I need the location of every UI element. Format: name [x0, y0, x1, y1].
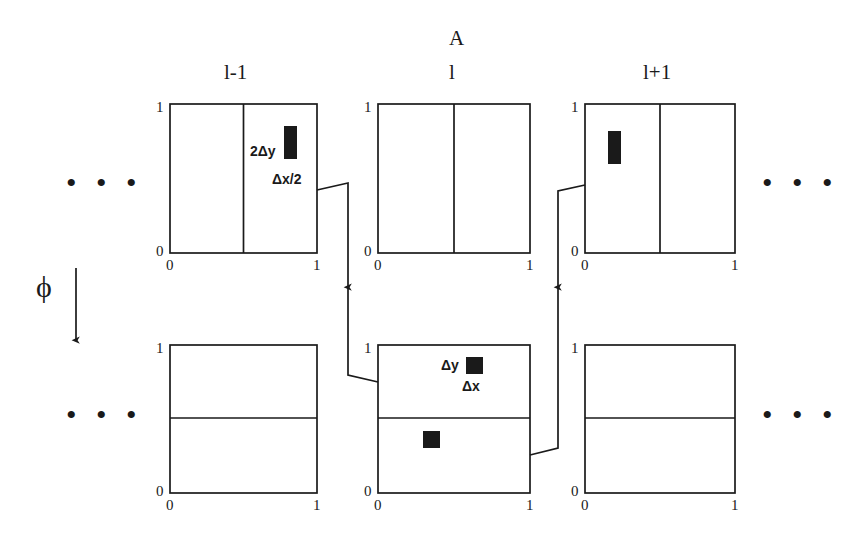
axis-y-top-top-right: 1 [571, 100, 579, 115]
axis-x-right-bottom-left: 1 [313, 498, 321, 513]
axis-x-left-bottom-left: 0 [166, 498, 174, 513]
axis-y-top-bottom-right: 1 [571, 341, 579, 356]
axis-y-bottom-top-right: 0 [571, 244, 579, 259]
axis-y-bottom-bottom-right: 0 [571, 484, 579, 499]
panel-top-middle [378, 104, 530, 253]
axis-x-right-bottom-middle: 1 [526, 498, 534, 513]
panel-top-right [585, 104, 735, 253]
axis-x-right-top-right: 1 [731, 258, 739, 273]
axis-x-right-bottom-right: 1 [731, 498, 739, 513]
annotation-2dy: 2Δy [250, 144, 276, 158]
block-tall [608, 131, 621, 164]
axis-y-top-top-left: 1 [156, 100, 164, 115]
diagram-canvas [0, 0, 854, 541]
block-tall [284, 126, 297, 159]
axis-x-left-bottom-right: 0 [581, 498, 589, 513]
axis-y-bottom-top-middle: 0 [364, 244, 372, 259]
axis-y-top-bottom-middle: 1 [364, 341, 372, 356]
axis-y-top-bottom-left: 1 [156, 341, 164, 356]
axis-y-bottom-bottom-left: 0 [156, 484, 164, 499]
axis-x-left-top-right: 0 [581, 258, 589, 273]
axis-y-bottom-top-left: 0 [156, 244, 164, 259]
annotation-dx-half: Δx/2 [272, 172, 302, 186]
connector-right [530, 185, 585, 455]
axis-x-left-top-middle: 0 [374, 258, 382, 273]
axis-x-right-top-middle: 1 [526, 258, 534, 273]
block-square-lower [423, 431, 440, 448]
annotation-dy: Δy [441, 358, 459, 372]
panel-bottom-left [170, 345, 317, 493]
axis-x-left-top-left: 0 [166, 258, 174, 273]
axis-y-bottom-bottom-middle: 0 [364, 484, 372, 499]
block-square-upper [466, 357, 483, 374]
axis-x-left-bottom-middle: 0 [374, 498, 382, 513]
annotation-dx: Δx [462, 379, 480, 393]
axis-y-top-top-middle: 1 [364, 100, 372, 115]
figure-root: A l-1 l l+1 ϕ • • • • • • • • • • • • [0, 0, 854, 541]
axis-x-right-top-left: 1 [313, 258, 321, 273]
panel-bottom-right [585, 345, 735, 493]
